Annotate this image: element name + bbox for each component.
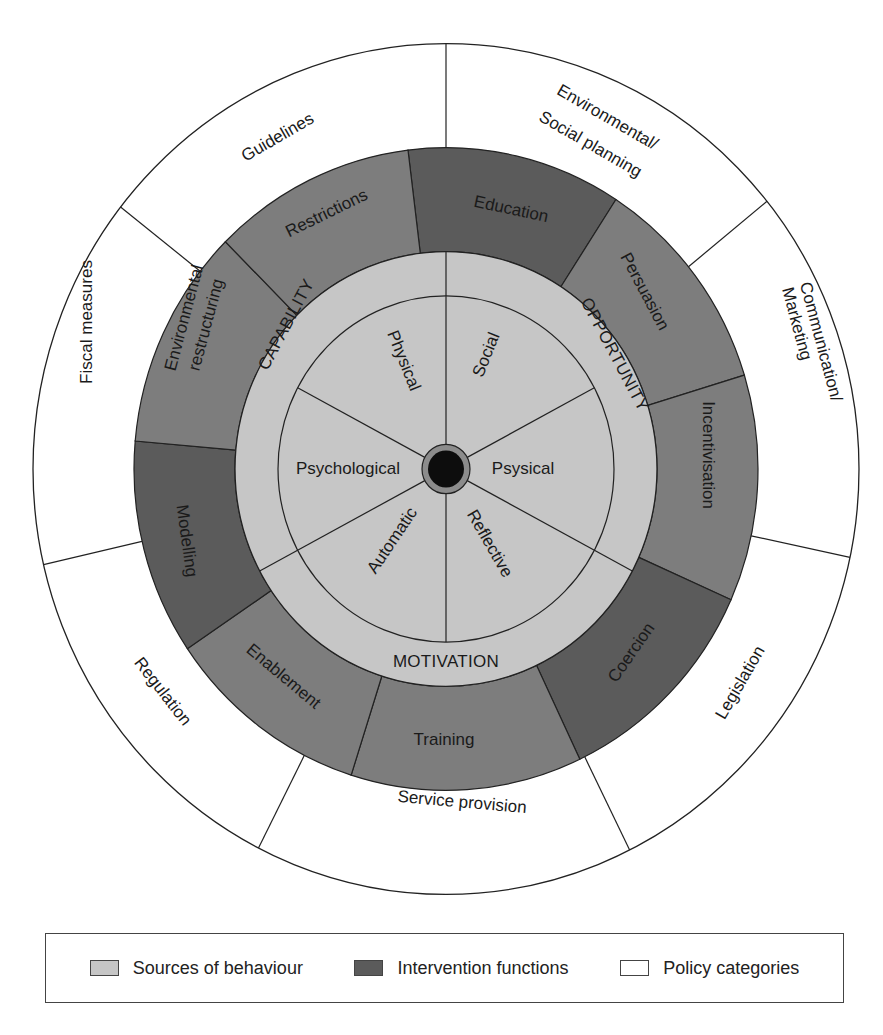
legend-swatch-interventions-icon xyxy=(354,960,383,976)
legend-item-policy: Policy categories xyxy=(620,958,799,979)
source-psychological: Psychological xyxy=(296,459,400,478)
legend-label-policy: Policy categories xyxy=(663,958,799,979)
component-motivation: MOTIVATION xyxy=(393,652,499,671)
intervention-training: Training xyxy=(414,730,475,749)
policy-fiscal-measures: Fiscal measures xyxy=(77,260,96,384)
legend-label-sources: Sources of behaviour xyxy=(133,958,303,979)
legend-item-interventions: Intervention functions xyxy=(354,958,568,979)
hub-core-icon xyxy=(428,450,464,487)
intervention-incentivisation: Incentivisation xyxy=(699,401,718,509)
legend-swatch-sources-icon xyxy=(90,960,119,976)
behaviour-change-wheel: Guidelines Environmental/ Social plannin… xyxy=(0,0,883,930)
legend-label-interventions: Intervention functions xyxy=(397,958,568,979)
legend: Sources of behaviour Intervention functi… xyxy=(45,933,844,1003)
legend-swatch-policy-icon xyxy=(620,960,649,976)
legend-item-sources: Sources of behaviour xyxy=(90,958,303,979)
source-psysical: Psysical xyxy=(492,459,554,478)
